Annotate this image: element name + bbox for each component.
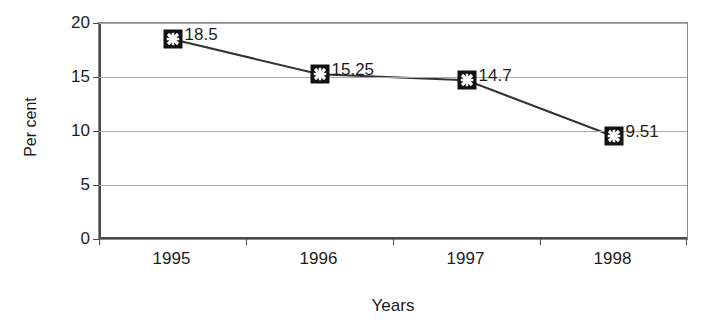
- x-axis-title: Years: [98, 296, 688, 316]
- x-axis-tick-label: 1998: [594, 250, 632, 267]
- plot-area: 18.515.2514.79.51: [98, 22, 688, 240]
- data-point-label: 14.7: [479, 67, 512, 84]
- x-axis-tick-label: 1996: [300, 250, 338, 267]
- y-axis-tick-label: 10: [71, 122, 90, 139]
- y-axis-tick: [93, 23, 99, 24]
- x-axis-tick: [393, 239, 394, 245]
- x-axis-tick-label: 1995: [153, 250, 191, 267]
- data-point-label: 9.51: [626, 123, 659, 140]
- data-point-marker[interactable]: [457, 71, 476, 90]
- y-axis-title-text: Per cent: [22, 97, 40, 157]
- y-axis-tick: [93, 185, 99, 186]
- chart-screenshot: Per cent 05101520 18.515.2514.79.51 1995…: [0, 0, 719, 331]
- y-axis-tick-label: 20: [71, 14, 90, 31]
- data-point-label: 15.25: [332, 61, 375, 78]
- y-axis-title: Per cent: [18, 62, 44, 192]
- y-axis-tick-labels: 05101520: [52, 22, 90, 240]
- x-axis-tick: [686, 239, 687, 245]
- gridline: [99, 131, 687, 132]
- y-axis-tick-label: 0: [81, 230, 90, 247]
- x-axis-tick: [99, 239, 100, 245]
- x-axis-tick-label: 1997: [447, 250, 485, 267]
- data-point-label: 18.5: [185, 26, 218, 43]
- x-axis-tick-labels: 1995199619971998: [98, 250, 688, 274]
- y-axis-tick: [93, 77, 99, 78]
- data-point-marker[interactable]: [604, 127, 623, 146]
- x-axis-tick: [540, 239, 541, 245]
- y-axis-tick-label: 15: [71, 68, 90, 85]
- gridline: [99, 77, 687, 78]
- y-axis-tick-label: 5: [81, 176, 90, 193]
- y-axis-tick: [93, 131, 99, 132]
- data-point-marker[interactable]: [163, 30, 182, 49]
- data-point-marker[interactable]: [310, 65, 329, 84]
- x-axis-tick: [246, 239, 247, 245]
- gridline: [99, 185, 687, 186]
